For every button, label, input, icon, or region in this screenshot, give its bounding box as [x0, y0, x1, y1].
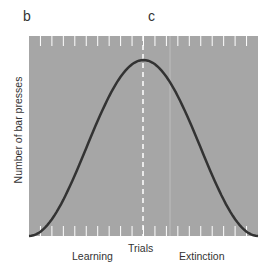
x-axis-label: Trials: [128, 242, 153, 254]
chart-plot: [0, 0, 267, 266]
y-axis-label: Number of bar presses: [12, 70, 24, 190]
phase-learning: Learning: [72, 250, 113, 262]
phase-extinction: Extinction: [179, 250, 225, 262]
